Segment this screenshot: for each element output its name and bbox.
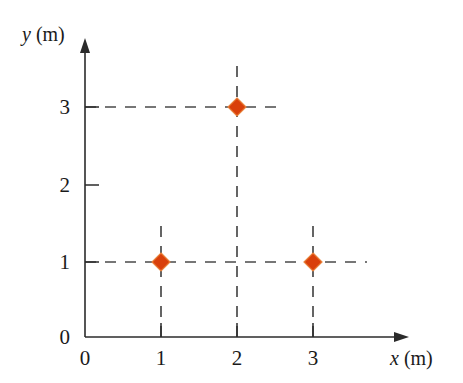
y-axis-title: y (m): [22, 24, 65, 44]
data-point-marker[interactable]: [152, 253, 170, 271]
x-axis-variable-label: x: [390, 347, 399, 369]
x-tick-label-2: 2: [224, 348, 250, 369]
x-tick-label-3: 3: [300, 348, 326, 369]
y-axis-unit-label: (m): [36, 23, 65, 45]
y-axis-variable-label: y: [22, 23, 31, 45]
x-axis-unit-label: (m): [404, 347, 433, 369]
x-tick-label-1: 1: [148, 348, 174, 369]
y-tick-label-0: 0: [44, 327, 70, 348]
data-point-marker[interactable]: [304, 253, 322, 271]
y-tick-label-3: 3: [44, 97, 70, 118]
data-point-marker[interactable]: [228, 98, 246, 116]
y-tick-label-1: 1: [44, 252, 70, 273]
y-axis-arrow-icon: [80, 38, 90, 53]
y-tick-label-2: 2: [44, 175, 70, 196]
coordinate-plot-figure: y (m) x (m) 0 1 2 3 0 1 2 3: [0, 0, 463, 383]
x-axis-arrow-icon: [394, 332, 409, 342]
x-tick-label-0: 0: [72, 348, 98, 369]
x-axis-title: x (m): [390, 348, 433, 368]
